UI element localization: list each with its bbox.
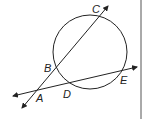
label-c: C: [92, 3, 100, 15]
label-a: A: [35, 92, 43, 104]
label-e: E: [120, 74, 128, 86]
label-b: B: [44, 62, 51, 74]
geometry-diagram: C B A D E: [0, 0, 144, 119]
label-d: D: [63, 88, 71, 100]
